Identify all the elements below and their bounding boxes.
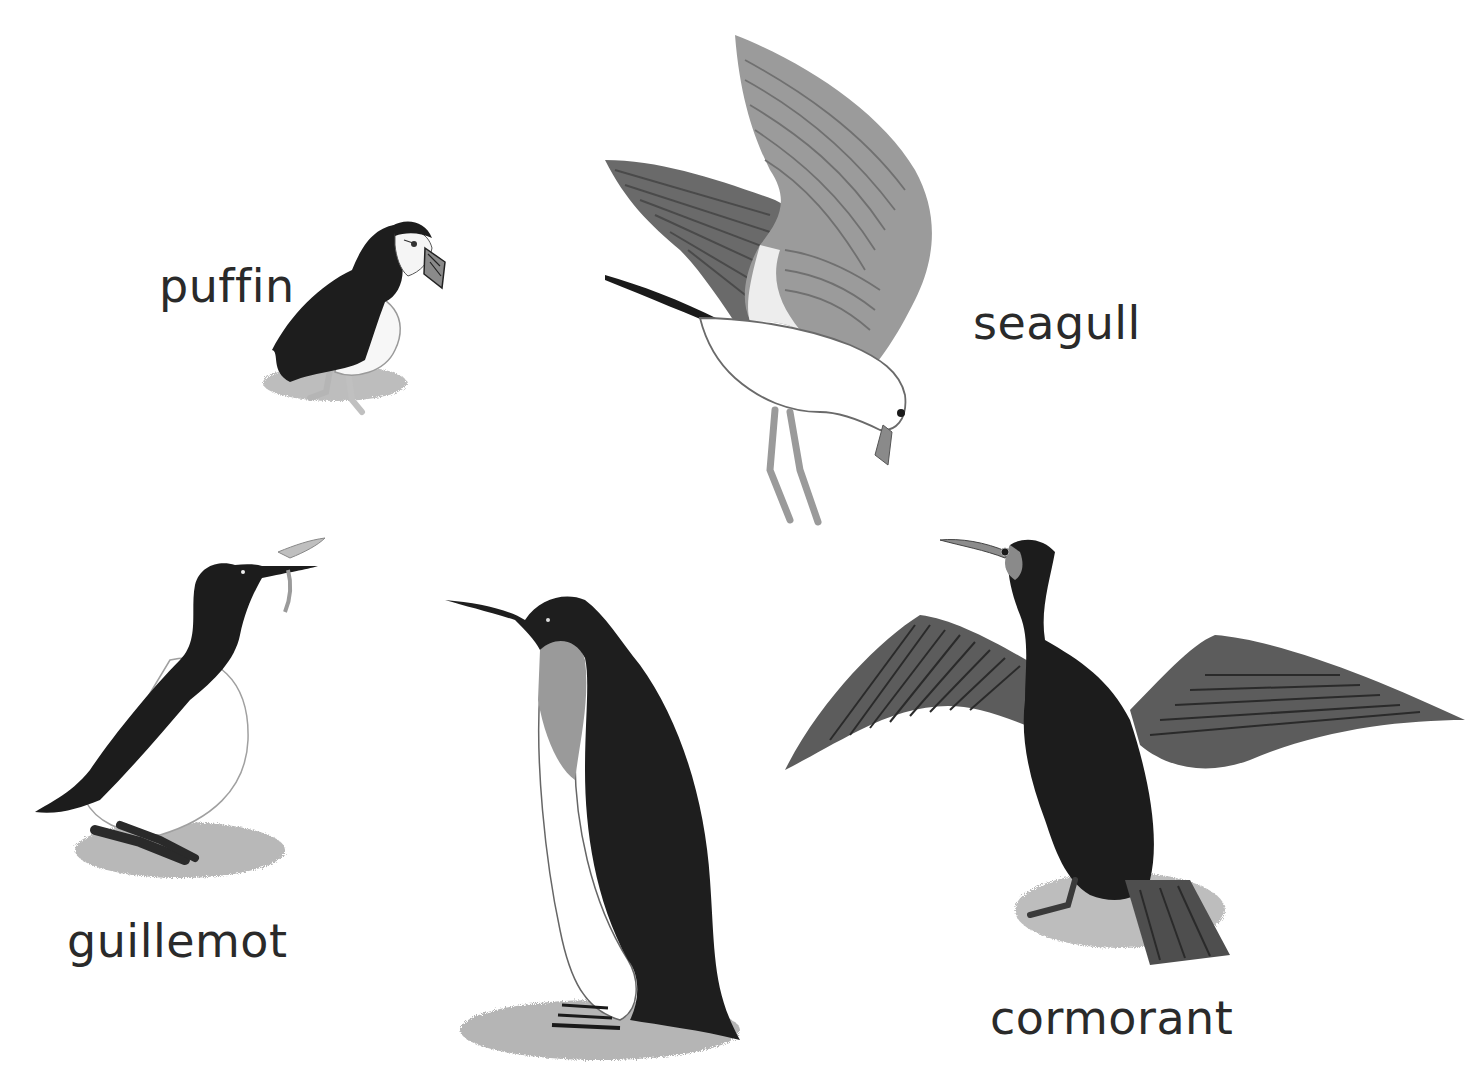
label-seagull: seagull: [973, 300, 1141, 346]
label-cormorant: cormorant: [990, 995, 1233, 1041]
birds-illustration: [0, 0, 1470, 1073]
cormorant-illustration: [785, 540, 1465, 966]
seagull-illustration: [605, 35, 932, 522]
label-puffin: puffin: [159, 263, 295, 309]
label-guillemot: guillemot: [67, 918, 287, 964]
illustration-canvas: puffin seagull guillemot cormorant: [0, 0, 1470, 1073]
puffin-illustration: [263, 222, 445, 412]
guillemot-illustration: [35, 538, 325, 878]
penguin-illustration: [445, 597, 740, 1060]
